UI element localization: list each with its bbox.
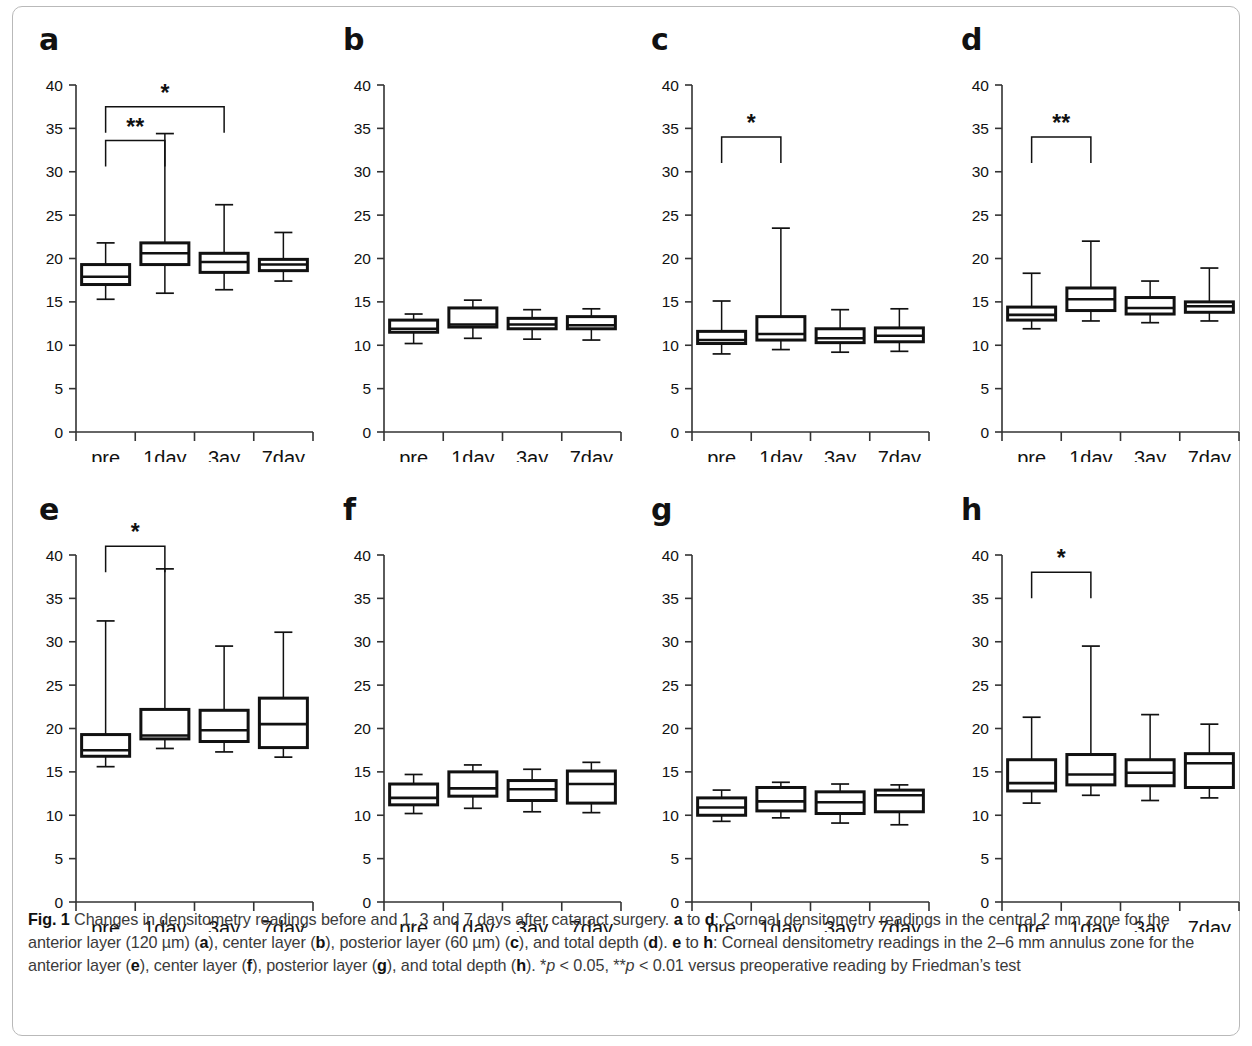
box-f-3ay (508, 769, 556, 812)
panel-letter-d: d (961, 25, 982, 55)
y-tick-label: 35 (662, 590, 679, 607)
box-g-7day (875, 785, 923, 825)
y-tick-label: 15 (46, 293, 63, 310)
caption-segment: d (705, 910, 715, 928)
boxplot-c: 0510152025303540pre1day3ay7day* (629, 7, 942, 462)
box-f-1day (449, 765, 497, 808)
panel-f: f0510152025303540pre1day3ay7day (321, 477, 634, 932)
x-category-label-pre: pre (399, 447, 428, 462)
y-tick-label: 35 (354, 120, 371, 137)
box-body (390, 784, 438, 805)
x-category-label-1day: 1day (759, 447, 802, 462)
box-b-pre (390, 314, 438, 343)
box-body (390, 320, 438, 332)
y-tick-label: 40 (354, 547, 372, 564)
boxplot-b: 0510152025303540pre1day3ay7day (321, 7, 634, 462)
x-category-label-7day: 7day (570, 447, 613, 462)
significance-bracket-a-pre-1day: ** (106, 114, 165, 167)
box-body (200, 710, 248, 741)
y-tick-label: 20 (354, 250, 372, 267)
figure-caption: Fig. 1 Changes in densitometry readings … (28, 908, 1226, 977)
significance-symbol: * (131, 519, 140, 545)
y-tick-label: 25 (354, 677, 371, 694)
box-body (698, 331, 746, 343)
panel-letter-c: c (651, 25, 669, 55)
box-body (449, 772, 497, 796)
box-b-7day (567, 309, 615, 340)
boxplot-h: 0510152025303540pre1day3ay7day* (939, 477, 1252, 932)
y-tick-label: 15 (662, 763, 679, 780)
y-tick-label: 5 (54, 380, 63, 397)
caption-segment: e (672, 933, 681, 951)
box-d-7day (1185, 268, 1233, 321)
y-tick-label: 20 (662, 720, 680, 737)
y-tick-label: 20 (354, 720, 372, 737)
box-c-7day (875, 309, 923, 352)
figure-frame: a0510152025303540pre1day3ay7day***b05101… (12, 6, 1240, 1036)
box-body (82, 735, 130, 757)
y-tick-label: 20 (46, 250, 64, 267)
boxplot-e: 0510152025303540pre1day3ay7day* (13, 477, 326, 932)
x-category-label-3ay: 3ay (824, 447, 856, 462)
y-tick-label: 40 (46, 547, 64, 564)
caption-segment: a (674, 910, 683, 928)
significance-symbol: * (160, 80, 169, 106)
panel-a: a0510152025303540pre1day3ay7day*** (13, 7, 326, 462)
y-tick-label: 10 (46, 807, 64, 824)
box-body (1067, 755, 1115, 785)
bracket-path (722, 137, 781, 163)
panel-letter-g: g (651, 495, 672, 525)
box-h-pre (1008, 717, 1056, 803)
x-category-label-3ay: 3ay (208, 447, 240, 462)
y-tick-label: 30 (972, 633, 990, 650)
box-h-7day (1185, 724, 1233, 798)
y-tick-label: 0 (362, 424, 371, 441)
y-tick-label: 20 (972, 250, 990, 267)
box-a-pre (82, 243, 130, 299)
x-category-label-1day: 1day (451, 447, 494, 462)
y-tick-label: 0 (54, 424, 63, 441)
box-body (757, 317, 805, 340)
box-g-1day (757, 782, 805, 818)
significance-bracket-c-pre-1day: * (722, 110, 781, 163)
y-tick-label: 35 (46, 590, 63, 607)
caption-segment: < 0.01 versus preoperative reading by Fr… (635, 956, 1021, 974)
panel-b: b0510152025303540pre1day3ay7day (321, 7, 634, 462)
y-tick-label: 20 (972, 720, 990, 737)
y-tick-label: 15 (972, 763, 989, 780)
caption-segment: p (626, 956, 635, 974)
box-f-pre (390, 774, 438, 813)
y-tick-label: 40 (354, 77, 372, 94)
panel-grid: a0510152025303540pre1day3ay7day***b05101… (13, 7, 1252, 907)
bracket-path (1032, 572, 1091, 598)
box-b-3ay (508, 310, 556, 339)
x-category-label-1day: 1day (143, 447, 186, 462)
panel-letter-a: a (39, 25, 59, 55)
boxplot-g: 0510152025303540pre1day3ay7day (629, 477, 942, 932)
y-tick-label: 0 (980, 424, 989, 441)
box-body (567, 317, 615, 329)
box-e-pre (82, 621, 130, 767)
box-c-3ay (816, 310, 864, 353)
caption-segment: Fig. 1 (28, 910, 74, 928)
y-tick-label: 30 (354, 633, 372, 650)
box-body (82, 265, 130, 285)
y-tick-label: 25 (662, 677, 679, 694)
box-c-pre (698, 301, 746, 354)
caption-segment: ), and total depth ( (519, 933, 648, 951)
y-tick-label: 10 (662, 807, 680, 824)
caption-segment: e (131, 956, 140, 974)
x-category-label-pre: pre (91, 447, 120, 462)
y-tick-label: 30 (662, 633, 680, 650)
panel-letter-b: b (343, 25, 364, 55)
y-tick-label: 35 (972, 120, 989, 137)
y-tick-label: 5 (362, 380, 371, 397)
y-tick-label: 40 (972, 77, 990, 94)
bracket-path (106, 141, 165, 167)
y-tick-label: 5 (670, 380, 679, 397)
caption-segment: c (510, 933, 519, 951)
y-tick-label: 0 (670, 424, 679, 441)
y-tick-label: 30 (972, 163, 990, 180)
significance-symbol: * (1057, 545, 1066, 571)
y-tick-label: 25 (46, 207, 63, 224)
